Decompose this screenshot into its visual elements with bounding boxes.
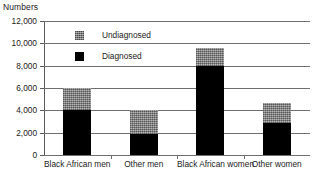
bar-segment-undiagnosed <box>263 103 291 123</box>
y-axis-label: 6,000 <box>0 83 37 93</box>
bar-segment-undiagnosed <box>196 48 224 66</box>
bar-segment-undiagnosed <box>130 110 158 133</box>
black-swatch-icon <box>75 52 84 61</box>
gray-texture-swatch-icon <box>75 31 84 40</box>
y-axis-label: 10,000 <box>0 38 37 48</box>
bar-segment-diagnosed <box>63 110 91 155</box>
y-axis-label: 12,000 <box>0 16 37 26</box>
bar-group <box>263 21 291 155</box>
y-axis-label: 8,000 <box>0 61 37 71</box>
x-axis-label: Other women <box>244 159 311 169</box>
legend-label: Undiagnosed <box>102 30 151 40</box>
plot-area <box>44 21 310 155</box>
y-axis-label: 4,000 <box>0 105 37 115</box>
y-axis-title: Numbers <box>3 2 38 12</box>
x-axis-label: Other men <box>111 159 178 169</box>
bar-group <box>63 21 91 155</box>
bar-segment-diagnosed <box>263 123 291 155</box>
legend-label: Diagnosed <box>102 51 142 61</box>
y-axis-label: 2,000 <box>0 128 37 138</box>
x-axis-label: Black African women <box>177 159 244 169</box>
bar-segment-diagnosed <box>196 66 224 155</box>
bar-chart: Numbers 12,00010,0008,0006,0004,0002,000… <box>0 0 313 178</box>
x-axis-label: Black African men <box>44 159 111 169</box>
y-axis-label: 0 <box>0 150 37 160</box>
bar-group <box>196 21 224 155</box>
bar-segment-undiagnosed <box>63 88 91 110</box>
bar-group <box>130 21 158 155</box>
bar-segment-diagnosed <box>130 134 158 155</box>
